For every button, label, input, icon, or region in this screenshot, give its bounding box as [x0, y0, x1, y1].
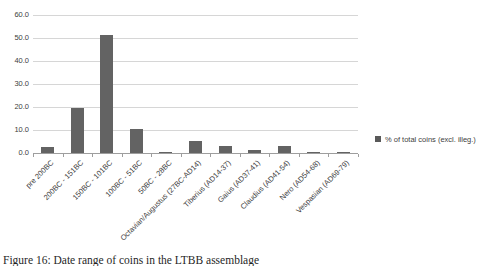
- x-axis-tick: [240, 154, 241, 157]
- y-axis-tick-label: 30.0: [5, 80, 29, 88]
- bar: [71, 108, 84, 153]
- x-axis-tick: [328, 154, 329, 157]
- x-axis-tick: [269, 154, 270, 157]
- y-axis-tick-label: 50.0: [5, 34, 29, 42]
- x-axis-tick: [63, 154, 64, 157]
- y-axis-tick-label: 10.0: [5, 126, 29, 134]
- x-axis-tick: [358, 154, 359, 157]
- bar: [307, 152, 320, 153]
- bar: [337, 152, 350, 153]
- figure-caption: Figure 16: Date range of coins in the LT…: [3, 254, 483, 266]
- gridline: [33, 38, 358, 39]
- legend-label: % of total coins (excl. illeg.): [385, 135, 476, 144]
- bar: [219, 146, 232, 153]
- bar: [100, 35, 113, 153]
- bar: [278, 146, 291, 153]
- plot-area: 0.010.020.030.040.050.060.0pre 200BC200B…: [0, 0, 493, 252]
- x-axis-tick: [299, 154, 300, 157]
- x-axis-tick: [181, 154, 182, 157]
- bar: [159, 152, 172, 153]
- gridline: [33, 15, 358, 16]
- gridline: [33, 61, 358, 62]
- x-axis-tick: [151, 154, 152, 157]
- x-axis-tick: [210, 154, 211, 157]
- gridline: [33, 84, 358, 85]
- x-axis-tick: [92, 154, 93, 157]
- x-axis-tick: [122, 154, 123, 157]
- y-axis-tick-label: 20.0: [5, 103, 29, 111]
- x-axis-tick: [33, 154, 34, 157]
- x-axis-category-label: Vespasian (AD69-79): [295, 159, 351, 215]
- y-axis-tick-label: 0.0: [5, 149, 29, 157]
- bar: [130, 129, 143, 153]
- chart-legend: % of total coins (excl. illeg.): [375, 135, 476, 144]
- legend-marker-square: [375, 136, 381, 142]
- gridline: [33, 153, 358, 154]
- bar: [189, 141, 202, 153]
- y-axis-tick-label: 60.0: [5, 11, 29, 19]
- y-axis-tick-label: 40.0: [5, 57, 29, 65]
- bar: [248, 150, 261, 153]
- bar-chart: 0.010.020.030.040.050.060.0pre 200BC200B…: [0, 0, 493, 252]
- bar: [41, 147, 54, 153]
